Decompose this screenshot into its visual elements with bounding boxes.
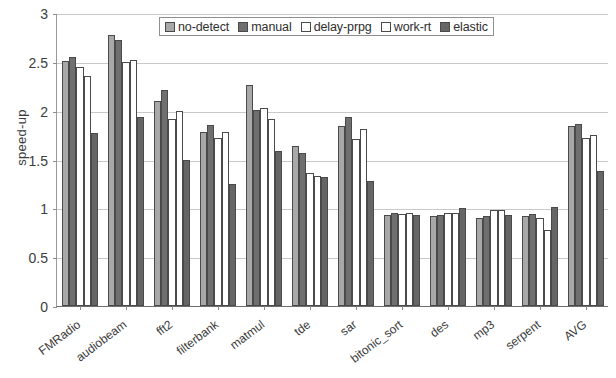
x-axis-tick-labels: FMRadioaudiobeamfft2filterbankmatmultdes…	[0, 0, 616, 378]
bar-chart: speed-up 00.511.522.53 no-detectmanualde…	[0, 0, 616, 378]
